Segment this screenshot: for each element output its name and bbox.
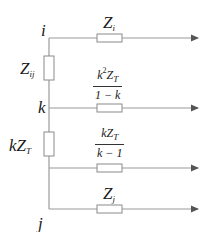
node-k-label: k (38, 99, 46, 116)
fraction-bar (93, 86, 122, 87)
zi-label: Zi (103, 14, 115, 33)
kzt-label: kZT (9, 137, 31, 156)
circuit-diagram: i k j Zij kZT Zi k2ZT 1 − k kZT k − 1 Zj (0, 0, 216, 232)
resistor-zij-icon (44, 56, 54, 80)
zij-label: Zij (20, 60, 34, 79)
resistor-kzt-icon (44, 132, 54, 156)
node-i-label: i (41, 22, 46, 39)
zj-label: Zj (103, 185, 115, 204)
kzt-over-km1-label: kZT k − 1 (95, 127, 124, 159)
k2zt-over-1mk-label: k2ZT 1 − k (93, 67, 122, 101)
fraction-bar (95, 144, 124, 145)
node-j-label: j (38, 215, 43, 232)
